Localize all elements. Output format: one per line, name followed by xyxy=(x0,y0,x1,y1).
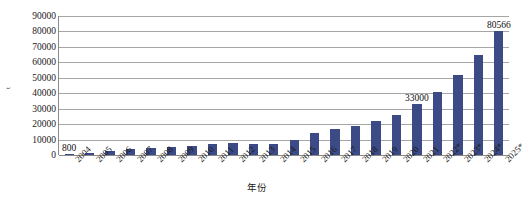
x-axis-tick-label: 2009 xyxy=(176,157,183,164)
x-axis-tick-labels: 2004200520062007200820092010201120122013… xyxy=(58,157,508,185)
bar-slot xyxy=(249,16,258,155)
bar-slot xyxy=(208,16,217,155)
bar-slot xyxy=(474,16,483,155)
x-axis-tick-label: 2025* xyxy=(503,157,510,164)
x-axis-tick-label: 2021 xyxy=(421,157,428,164)
x-axis-tick-label: 2019 xyxy=(380,157,387,164)
bar-slot xyxy=(330,16,339,155)
x-axis-tick-label: 2020 xyxy=(401,157,408,164)
bar xyxy=(494,31,503,155)
bar-slot xyxy=(269,16,278,155)
x-axis-tick-label: 2005 xyxy=(94,157,101,164)
y-axis-tick-label: 70000 xyxy=(32,42,56,52)
bar-slot xyxy=(65,16,74,155)
plot-area: 8003300080566 xyxy=(58,16,508,155)
x-axis-tick-label: 2008 xyxy=(155,157,162,164)
bar-slot xyxy=(126,16,135,155)
y-axis-tick-label: 40000 xyxy=(32,88,56,98)
x-axis-tick-label: 2015 xyxy=(298,157,305,164)
bar-slot xyxy=(371,16,380,155)
x-axis-tick-label: 2014 xyxy=(278,157,285,164)
bar-slot xyxy=(351,16,360,155)
y-axis-tick-labels: 0100002000030000400005000060000700008000… xyxy=(14,11,58,156)
y-axis-tick-label: 50000 xyxy=(32,73,56,83)
x-axis-tick-label: 2016 xyxy=(319,157,326,164)
bar-slot xyxy=(310,16,319,155)
bar-slot xyxy=(187,16,196,155)
y-axis-tick-label: 20000 xyxy=(32,119,56,129)
bar-slot xyxy=(146,16,155,155)
x-axis-tick-label: 2011 xyxy=(216,157,223,164)
x-axis-tick-label: 2012 xyxy=(237,157,244,164)
bar-slot xyxy=(392,16,401,155)
x-axis-tick-label: 2013 xyxy=(257,157,264,164)
bar-slot xyxy=(433,16,442,155)
x-axis-tick-label: 2006 xyxy=(114,157,121,164)
x-axis-tick-label: 2018 xyxy=(360,157,367,164)
x-axis-tick-label: 2017 xyxy=(339,157,346,164)
bar-slot xyxy=(412,16,421,155)
x-axis-tick-label: 2007 xyxy=(135,157,142,164)
bar-slot xyxy=(85,16,94,155)
bar xyxy=(65,154,74,155)
bar-series xyxy=(59,16,509,155)
x-axis-tick-label: 2022* xyxy=(441,157,448,164)
x-axis-title: 年份 xyxy=(0,183,514,194)
x-axis-tick-label: 2024* xyxy=(482,157,489,164)
y-axis-tick-label: 90000 xyxy=(32,11,56,21)
x-axis-tick-label: 2004 xyxy=(73,157,80,164)
bar-slot xyxy=(228,16,237,155)
x-axis-tick-label: 2010 xyxy=(196,157,203,164)
data-label: 80566 xyxy=(469,20,527,30)
y-axis-tick-label: 60000 xyxy=(32,57,56,67)
x-axis-tick-label: 2023* xyxy=(462,157,469,164)
y-axis-tick-label: 30000 xyxy=(32,104,56,114)
y-axis-tick-label: 80000 xyxy=(32,26,56,36)
bar-slot xyxy=(167,16,176,155)
data-label: 33000 xyxy=(387,93,447,103)
bar-slot xyxy=(494,16,503,155)
bar-slot xyxy=(453,16,462,155)
y-axis-title: t xyxy=(4,81,12,95)
bar-slot xyxy=(105,16,114,155)
bar-slot xyxy=(290,16,299,155)
